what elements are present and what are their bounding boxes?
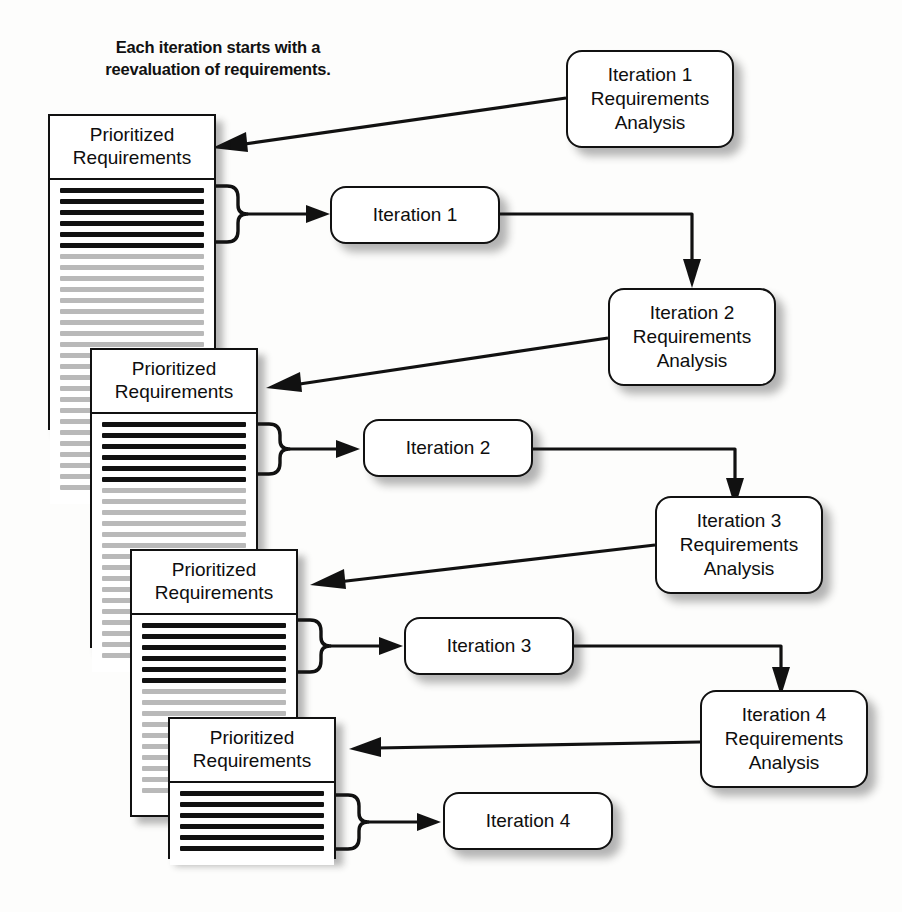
requirement-line-light	[60, 331, 204, 336]
diagram-canvas: Each iteration starts with a reevaluatio…	[0, 0, 902, 912]
box-iteration-4[interactable]: Iteration 4	[443, 792, 613, 850]
requirement-line-dark	[102, 433, 246, 438]
requirement-line-light	[60, 265, 204, 270]
requirement-line-dark	[142, 634, 286, 639]
requirement-line-light	[142, 689, 286, 694]
box-iteration-4-requirements-analysis[interactable]: Iteration 4 Requirements Analysis	[700, 690, 868, 788]
requirement-line-dark	[102, 477, 246, 482]
requirement-line-dark	[102, 455, 246, 460]
box-iteration-2-requirements-analysis[interactable]: Iteration 2 Requirements Analysis	[608, 288, 776, 386]
requirement-line-dark	[180, 824, 324, 829]
requirement-line-dark	[102, 444, 246, 449]
connector-ra4-to-doc4	[349, 737, 700, 757]
connector-doc4-to-iteration4	[334, 795, 441, 849]
requirement-line-dark	[142, 678, 286, 683]
requirement-line-dark	[60, 243, 204, 248]
requirement-line-light	[60, 342, 204, 347]
requirement-line-light	[102, 521, 246, 526]
requirement-line-dark	[142, 656, 286, 661]
document-title-1: Prioritized Requirements	[50, 116, 214, 180]
requirement-line-light	[60, 298, 204, 303]
requirement-line-light	[102, 488, 246, 493]
requirement-line-dark	[180, 813, 324, 818]
requirement-line-light	[102, 543, 246, 548]
document-prioritized-requirements-4[interactable]: Prioritized Requirements	[168, 717, 336, 859]
requirement-line-light	[142, 700, 286, 705]
connector-iteration1-to-ra2	[500, 214, 701, 288]
document-title-4: Prioritized Requirements	[170, 719, 334, 783]
box-iteration-1-requirements-analysis[interactable]: Iteration 1 Requirements Analysis	[566, 50, 734, 148]
requirement-line-light	[102, 532, 246, 537]
requirement-line-light	[102, 499, 246, 504]
requirement-line-dark	[60, 232, 204, 237]
document-lines-4	[170, 783, 334, 865]
requirement-line-dark	[102, 466, 246, 471]
connector-doc3-to-iteration3	[296, 620, 403, 672]
connector-doc2-to-iteration2	[255, 424, 360, 474]
box-iteration-2[interactable]: Iteration 2	[363, 419, 533, 477]
requirement-line-light	[60, 320, 204, 325]
requirement-line-dark	[180, 835, 324, 840]
requirement-line-dark	[102, 422, 246, 427]
box-iteration-3-requirements-analysis[interactable]: Iteration 3 Requirements Analysis	[655, 496, 823, 594]
requirement-line-light	[60, 287, 204, 292]
connector-ra1-to-doc1	[212, 98, 566, 152]
requirement-line-dark	[60, 221, 204, 226]
requirement-line-dark	[60, 188, 204, 193]
requirement-line-dark	[180, 846, 324, 851]
requirement-line-dark	[60, 210, 204, 215]
document-title-2: Prioritized Requirements	[92, 350, 256, 414]
requirement-line-dark	[142, 667, 286, 672]
document-title-3: Prioritized Requirements	[132, 551, 296, 615]
requirement-line-dark	[180, 802, 324, 807]
requirement-line-light	[102, 510, 246, 515]
connector-doc1-to-iteration1	[213, 186, 330, 242]
connector-iteration3-to-ra4	[573, 646, 790, 696]
box-iteration-1[interactable]: Iteration 1	[330, 186, 500, 244]
requirement-line-dark	[142, 645, 286, 650]
requirement-line-dark	[142, 623, 286, 628]
requirement-line-dark	[60, 199, 204, 204]
requirement-line-light	[142, 711, 286, 716]
caption-text: Each iteration starts with a reevaluatio…	[84, 36, 352, 81]
requirement-line-light	[60, 276, 204, 281]
requirement-line-light	[60, 254, 204, 259]
requirement-line-dark	[180, 791, 324, 796]
box-iteration-3[interactable]: Iteration 3	[404, 617, 574, 675]
connector-ra2-to-doc2	[266, 338, 608, 392]
connector-ra3-to-doc3	[310, 545, 655, 589]
requirement-line-light	[60, 309, 204, 314]
